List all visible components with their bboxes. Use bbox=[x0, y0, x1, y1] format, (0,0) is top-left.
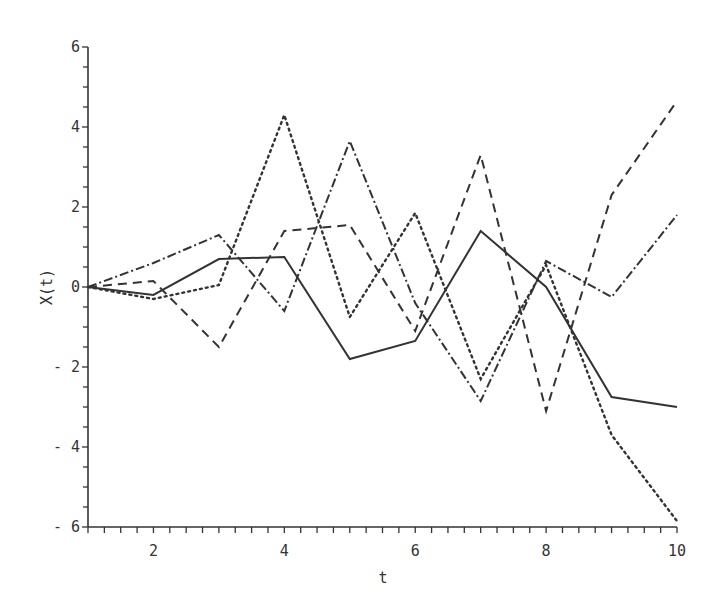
y-tick-label: - 4 bbox=[53, 438, 80, 456]
y-axis-label: X(t) bbox=[38, 269, 56, 305]
y-tick-label: - 2 bbox=[53, 358, 80, 376]
series-group bbox=[88, 101, 677, 521]
x-tick-label: 10 bbox=[668, 542, 686, 560]
line-chart: - 6- 4- 20246246810 t X(t) bbox=[0, 0, 726, 612]
series-dashed-line bbox=[88, 101, 677, 411]
x-tick-label: 6 bbox=[411, 542, 420, 560]
series-solid-line bbox=[88, 231, 677, 407]
series-dotted-line bbox=[88, 115, 677, 521]
y-tick-label: 2 bbox=[71, 198, 80, 216]
x-tick-label: 4 bbox=[280, 542, 289, 560]
y-tick-label: - 6 bbox=[53, 518, 80, 536]
x-tick-label: 8 bbox=[542, 542, 551, 560]
y-tick-label: 4 bbox=[71, 118, 80, 136]
y-tick-label: 0 bbox=[71, 278, 80, 296]
x-tick-label: 2 bbox=[149, 542, 158, 560]
y-tick-label: 6 bbox=[71, 38, 80, 56]
x-axis-label: t bbox=[378, 569, 387, 587]
